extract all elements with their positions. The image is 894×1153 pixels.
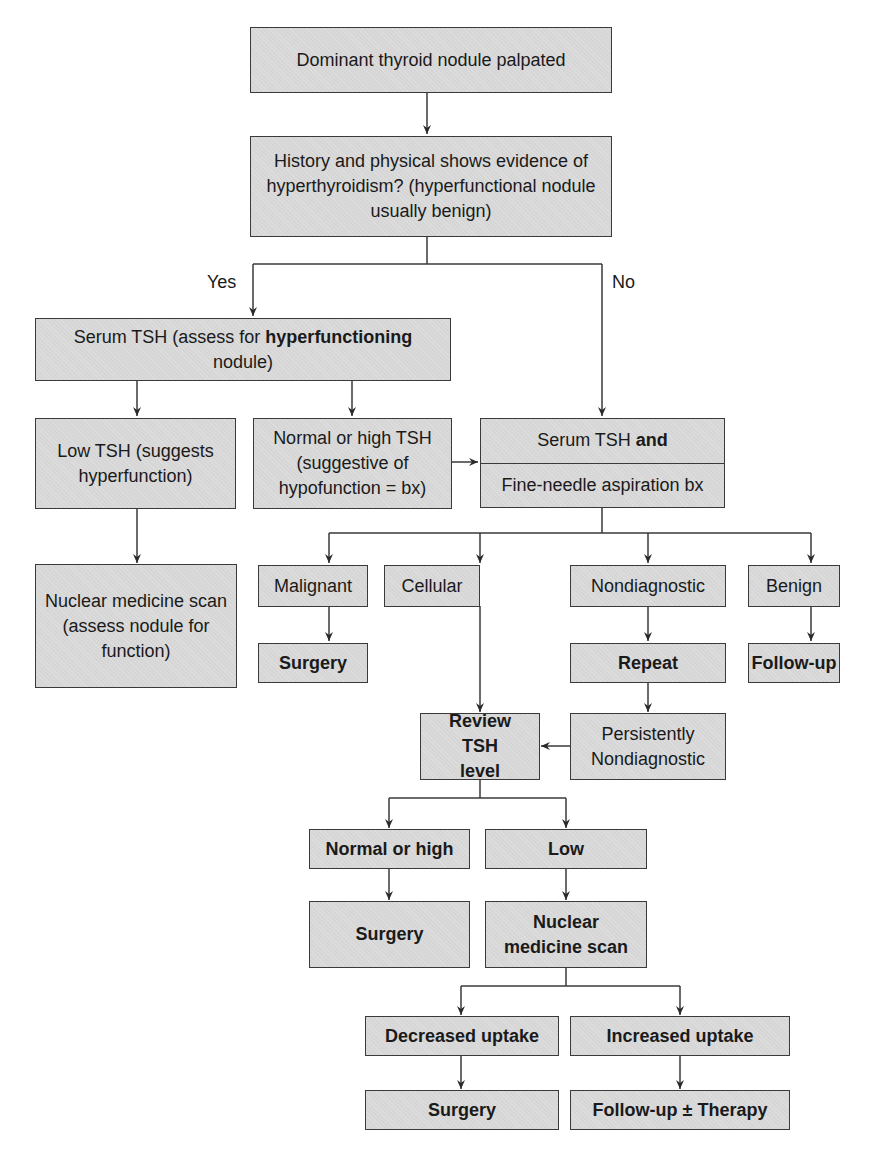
- node-surgery-decreased: Surgery: [365, 1090, 559, 1130]
- text-part: Serum TSH (assess for: [74, 327, 266, 347]
- node-serum-tsh-and-fna: Serum TSH and Fine-needle aspiration bx: [480, 418, 725, 508]
- node-follow-up-therapy-text: Follow-up ± Therapy: [593, 1098, 768, 1123]
- node-serum-tsh-hyperfunctioning-text: Serum TSH (assess for hyperfunctioning n…: [72, 325, 414, 375]
- node-follow-up: Follow-up: [748, 643, 840, 683]
- node-history-text: History and physical shows evidence of h…: [259, 149, 603, 224]
- text-part-bold: hyperfunctioning: [265, 327, 412, 347]
- node-fine-needle-aspiration: Fine-needle aspiration bx: [481, 463, 724, 508]
- node-low-tsh: Low TSH (suggests hyperfunction): [35, 418, 236, 509]
- node-decreased-uptake-text: Decreased uptake: [385, 1024, 539, 1049]
- node-nondiagnostic: Nondiagnostic: [570, 565, 726, 607]
- node-repeat: Repeat: [570, 643, 726, 683]
- node-malignant-text: Malignant: [274, 574, 352, 599]
- node-cellular-text: Cellular: [401, 574, 462, 599]
- node-start: Dominant thyroid nodule palpated: [250, 27, 612, 93]
- node-increased-uptake: Increased uptake: [570, 1016, 790, 1056]
- node-serum-tsh-and: Serum TSH and: [481, 419, 724, 463]
- node-normal-or-high: Normal or high: [309, 829, 470, 869]
- node-low-text: Low: [548, 837, 584, 862]
- node-serum-tsh-hyperfunctioning: Serum TSH (assess for hyperfunctioning n…: [35, 318, 451, 381]
- node-review-tsh: Review TSH level: [420, 713, 540, 780]
- node-surgery-normal-high: Surgery: [309, 901, 470, 968]
- node-surgery-text: Surgery: [428, 1098, 496, 1123]
- node-malignant: Malignant: [258, 565, 368, 607]
- node-persistently-nondiagnostic: Persistently Nondiagnostic: [570, 713, 726, 780]
- node-surgery-text: Surgery: [279, 651, 347, 676]
- node-nuclear-scan-text: Nuclear medicine scan: [498, 910, 634, 960]
- node-follow-up-therapy: Follow-up ± Therapy: [570, 1090, 790, 1130]
- text-part-bold: and: [636, 430, 668, 450]
- node-follow-up-text: Follow-up: [752, 651, 837, 676]
- node-nuclear-scan: Nuclear medicine scan: [485, 901, 647, 968]
- node-nuclear-scan-assess: Nuclear medicine scan (assess nodule for…: [35, 564, 237, 688]
- node-cellular: Cellular: [384, 565, 480, 607]
- node-normal-high-tsh: Normal or high TSH (suggestive of hypofu…: [253, 418, 452, 509]
- node-nuclear-scan-assess-text: Nuclear medicine scan (assess nodule for…: [44, 589, 228, 664]
- node-review-tsh-text: Review TSH level: [441, 709, 519, 784]
- node-persistently-nondiagnostic-text: Persistently Nondiagnostic: [581, 722, 715, 772]
- node-increased-uptake-text: Increased uptake: [606, 1024, 753, 1049]
- node-normal-high-tsh-text: Normal or high TSH (suggestive of hypofu…: [264, 426, 441, 501]
- edge-label-no: No: [612, 272, 635, 292]
- node-surgery-malignant: Surgery: [258, 643, 368, 683]
- node-decreased-uptake: Decreased uptake: [365, 1016, 559, 1056]
- text-part: Serum TSH: [537, 430, 636, 450]
- node-normal-or-high-text: Normal or high: [325, 837, 453, 862]
- node-history: History and physical shows evidence of h…: [250, 136, 612, 237]
- edge-label-yes: Yes: [207, 272, 236, 292]
- node-surgery-text: Surgery: [355, 922, 423, 947]
- thyroid-nodule-flowchart: Yes No Dominant thyroid nodule palpated …: [0, 0, 894, 1153]
- node-low-tsh-text: Low TSH (suggests hyperfunction): [54, 439, 217, 489]
- node-benign: Benign: [748, 565, 840, 607]
- node-repeat-text: Repeat: [618, 651, 678, 676]
- node-nondiagnostic-text: Nondiagnostic: [591, 574, 705, 599]
- node-benign-text: Benign: [766, 574, 822, 599]
- node-start-text: Dominant thyroid nodule palpated: [296, 48, 565, 73]
- node-fna-text: Fine-needle aspiration bx: [501, 473, 703, 498]
- node-low: Low: [485, 829, 647, 869]
- text-part: nodule): [213, 352, 273, 372]
